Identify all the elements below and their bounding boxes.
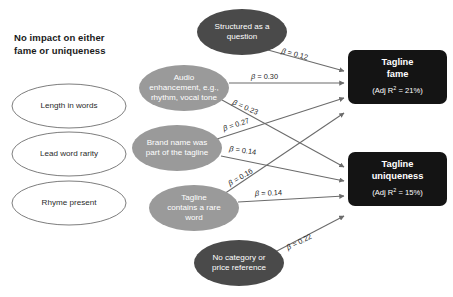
path-audio-to-uniqueness: β = 0.23 (222, 97, 344, 167)
ellipse-label: No category orprice reference (212, 253, 266, 272)
paths-layer: β = 0.12β = 0.30β = 0.23β = 0.27β = 0.14… (217, 46, 344, 252)
ellipse-label: Rhyme present (42, 198, 98, 207)
path-rare-word-to-uniqueness: β = 0.14 (238, 188, 344, 202)
no-impact-node-rhyme-present[interactable]: Rhyme present (12, 181, 126, 225)
outcome-box-tagline-fame[interactable]: Taglinefame(Adj R2 = 21%) (348, 50, 447, 104)
beta-label-audio-to-uniqueness: β = 0.23 (230, 97, 259, 117)
outcome-box-tagline-uniqueness[interactable]: Taglineuniqueness(Adj R2 = 15%) (348, 152, 447, 206)
beta-label-no-category-to-uniqueness: β = 0.22 (284, 232, 313, 252)
path-diagram: No impact on either fame or uniqueness β… (0, 0, 453, 297)
ellipse-label: Brand name waspart of the tagline (146, 138, 209, 157)
beta-label-brand-to-fame: β = 0.27 (221, 116, 250, 133)
outcome-subtitle: (Adj R2 = 21%) (372, 85, 423, 95)
outcome-subtitle: (Adj R2 = 15%) (372, 187, 423, 197)
arrow-line (238, 196, 344, 202)
ellipse-label: Lead word rarity (40, 149, 99, 158)
ellipse-label: Length in words (40, 101, 97, 110)
beta-label-structured-to-fame: β = 0.12 (280, 46, 309, 62)
predictor-node-brand-name-was-part-of-the-tagline[interactable]: Brand name waspart of the tagline (132, 125, 222, 171)
no-impact-node-lead-word-rarity[interactable]: Lead word rarity (12, 132, 126, 176)
diagram-canvas: β = 0.12β = 0.30β = 0.23β = 0.27β = 0.14… (0, 0, 453, 297)
predictor-node-no-category-or-price-reference[interactable]: No category orprice reference (194, 240, 284, 286)
path-structured-to-fame: β = 0.12 (268, 46, 344, 71)
beta-label-rare-word-to-fame: β = 0.16 (226, 166, 255, 188)
predictor-node-structured-as-a-question[interactable]: Structured as aquestion (197, 9, 287, 55)
boxes-layer: Taglinefame(Adj R2 = 21%)Taglineuniquene… (348, 50, 447, 206)
path-audio-to-fame: β = 0.30 (229, 72, 344, 83)
beta-label-rare-word-to-uniqueness: β = 0.14 (254, 188, 282, 198)
beta-label-brand-to-uniqueness: β = 0.14 (228, 144, 257, 157)
arrow-line (222, 100, 344, 167)
predictor-node-tagline-contains-a-rare-word[interactable]: Taglinecontains a rareword (149, 185, 239, 231)
beta-label-audio-to-fame: β = 0.30 (250, 72, 278, 81)
predictor-node-audio-enhancement[interactable]: Audioenhancement, e.g.,rhythm, vocal ton… (139, 65, 229, 111)
no-impact-node-length-in-words[interactable]: Length in words (12, 84, 126, 128)
path-no-category-to-uniqueness: β = 0.22 (275, 216, 344, 252)
